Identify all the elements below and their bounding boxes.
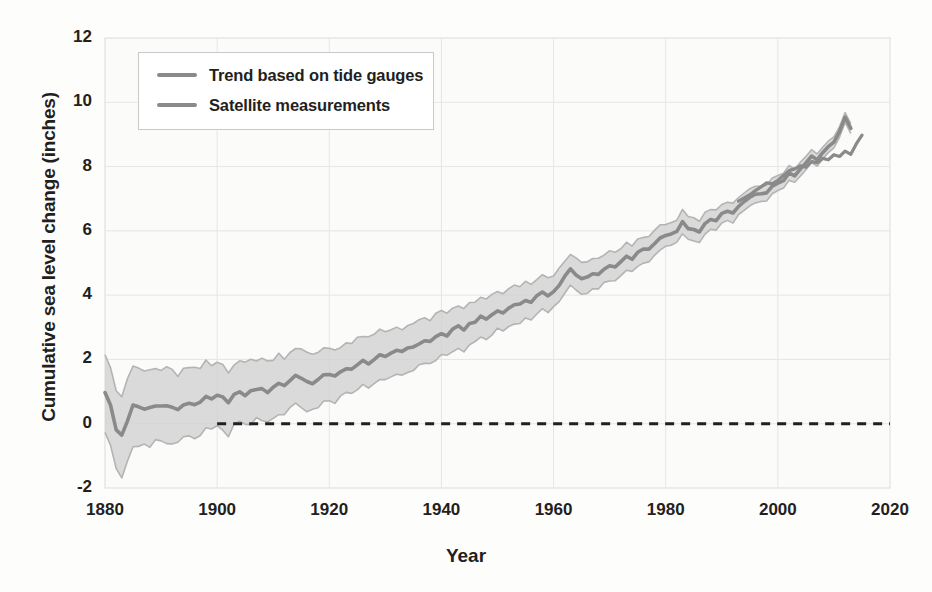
y-tick-4: 4: [46, 284, 92, 304]
x-axis-label: Year: [0, 545, 932, 567]
legend-swatch-satellite: [157, 103, 197, 107]
x-tick-1940: 1940: [406, 500, 476, 520]
x-tick-1980: 1980: [631, 500, 701, 520]
y-tick-neg2: -2: [46, 477, 92, 497]
x-tick-1880: 1880: [70, 500, 140, 520]
y-tick-6: 6: [46, 220, 92, 240]
y-tick-10: 10: [46, 91, 92, 111]
chart-legend: Trend based on tide gauges Satellite mea…: [138, 52, 434, 130]
legend-label-satellite: Satellite measurements: [209, 96, 390, 115]
y-tick-12: 12: [46, 27, 92, 47]
x-tick-1920: 1920: [294, 500, 364, 520]
x-tick-2000: 2000: [743, 500, 813, 520]
legend-swatch-trend: [157, 73, 197, 77]
legend-item-satellite: Satellite measurements: [139, 90, 433, 120]
legend-item-trend: Trend based on tide gauges: [139, 60, 433, 90]
x-tick-1900: 1900: [182, 500, 252, 520]
x-tick-2020: 2020: [855, 500, 925, 520]
legend-label-trend: Trend based on tide gauges: [209, 66, 423, 85]
x-tick-1960: 1960: [519, 500, 589, 520]
sea-level-chart-figure: Cumulative sea level change (inches) Yea…: [0, 0, 932, 592]
y-tick-0: 0: [46, 413, 92, 433]
y-tick-2: 2: [46, 348, 92, 368]
y-tick-8: 8: [46, 156, 92, 176]
